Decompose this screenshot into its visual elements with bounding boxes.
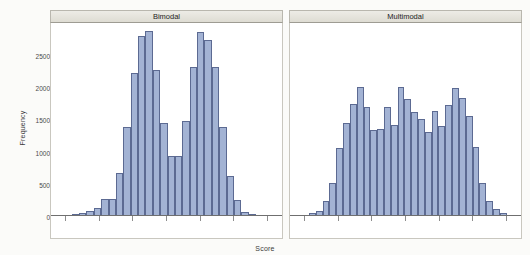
histogram-bar bbox=[438, 126, 445, 216]
panel-strip-label: Bimodal bbox=[50, 10, 283, 23]
histogram-bar bbox=[197, 32, 204, 216]
histogram-bar bbox=[384, 107, 391, 216]
histogram-bar bbox=[398, 87, 405, 216]
x-tick-mark bbox=[200, 216, 201, 221]
panel-container: BimodalMultimodal bbox=[50, 10, 522, 239]
x-tick-mark bbox=[304, 216, 305, 221]
histogram-bars bbox=[295, 27, 517, 216]
histogram-bar bbox=[466, 116, 473, 216]
panel-multimodal: Multimodal bbox=[289, 10, 522, 239]
histogram-bar bbox=[425, 132, 432, 216]
histogram-bar bbox=[418, 119, 425, 216]
y-tick-label: 1000 bbox=[36, 149, 50, 156]
y-tick-label: 2500 bbox=[36, 52, 50, 59]
x-tick-mark bbox=[506, 216, 507, 221]
panel-strip-label: Multimodal bbox=[289, 10, 522, 23]
histogram-bar bbox=[432, 111, 439, 216]
x-axis-title: Score bbox=[0, 245, 530, 252]
x-axis-ticks bbox=[290, 216, 521, 224]
histogram-bar bbox=[364, 107, 371, 216]
y-tick-label: 1500 bbox=[36, 117, 50, 124]
histogram-bar bbox=[411, 112, 418, 216]
histogram-bar bbox=[101, 199, 108, 216]
histogram-bar bbox=[109, 199, 116, 216]
x-tick-mark bbox=[99, 216, 100, 221]
x-tick-mark bbox=[472, 216, 473, 221]
histogram-bar bbox=[182, 121, 189, 216]
x-axis-ticks bbox=[51, 216, 282, 224]
histogram-bar bbox=[190, 67, 197, 216]
histogram-bar bbox=[404, 99, 411, 216]
plot-inner bbox=[290, 27, 521, 216]
plot-inner bbox=[51, 27, 282, 216]
y-tick-label: 500 bbox=[39, 181, 50, 188]
histogram-bar bbox=[123, 127, 130, 216]
histogram-bar bbox=[473, 147, 480, 216]
histogram-bar bbox=[227, 176, 234, 216]
plot-area bbox=[50, 23, 283, 239]
histogram-bar bbox=[138, 36, 145, 216]
histogram-bar bbox=[452, 88, 459, 216]
histogram-bar bbox=[479, 183, 486, 216]
histogram-bar bbox=[116, 173, 123, 216]
x-tick-mark bbox=[371, 216, 372, 221]
panel-bimodal: Bimodal bbox=[50, 10, 283, 239]
histogram-bar bbox=[323, 201, 330, 216]
histogram-bar bbox=[131, 73, 138, 216]
histogram-bar bbox=[175, 156, 182, 216]
histogram-figure: Frequency 05001000150020002500 BimodalMu… bbox=[0, 0, 530, 255]
x-tick-mark bbox=[65, 216, 66, 221]
x-tick-mark bbox=[166, 216, 167, 221]
histogram-bar bbox=[153, 70, 160, 216]
histogram-bar bbox=[445, 105, 452, 216]
histogram-bar bbox=[219, 127, 226, 216]
x-tick-mark bbox=[338, 216, 339, 221]
histogram-bars bbox=[56, 27, 278, 216]
histogram-bar bbox=[391, 125, 398, 216]
histogram-bar bbox=[350, 104, 357, 216]
x-tick-mark bbox=[405, 216, 406, 221]
histogram-bar bbox=[329, 183, 336, 216]
histogram-bar bbox=[459, 98, 466, 216]
histogram-bar bbox=[234, 200, 241, 216]
histogram-bar bbox=[168, 156, 175, 216]
histogram-bar bbox=[357, 87, 364, 216]
histogram-bar bbox=[370, 130, 377, 216]
histogram-bar bbox=[160, 123, 167, 216]
y-axis: 05001000150020002500 bbox=[16, 0, 50, 255]
x-tick-mark bbox=[267, 216, 268, 221]
histogram-bar bbox=[377, 129, 384, 216]
histogram-bar bbox=[486, 201, 493, 216]
histogram-bar bbox=[145, 31, 152, 216]
histogram-bar bbox=[336, 148, 343, 216]
histogram-bar bbox=[343, 123, 350, 216]
histogram-bar bbox=[212, 67, 219, 216]
plot-area bbox=[289, 23, 522, 239]
x-tick-mark bbox=[233, 216, 234, 221]
y-tick-label: 2000 bbox=[36, 85, 50, 92]
x-tick-mark bbox=[132, 216, 133, 221]
x-tick-mark bbox=[439, 216, 440, 221]
histogram-bar bbox=[204, 40, 211, 216]
